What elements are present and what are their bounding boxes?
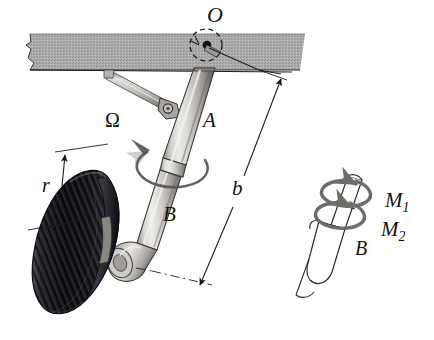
clevis-pin-joint [158, 98, 180, 119]
drag-brace-link [104, 70, 167, 109]
label-strut-B: B [163, 202, 176, 226]
inset-torque-diagram [296, 175, 371, 298]
label-length-b: b [232, 176, 243, 200]
label-radius-r: r [42, 174, 50, 196]
landing-gear-figure: O A B Ω r b B M1 M2 [0, 0, 434, 340]
label-moment-2: M2 [380, 217, 406, 244]
ceiling-mounting-plate [26, 34, 305, 76]
label-omega: Ω [105, 109, 120, 131]
label-inset-B: B [355, 237, 367, 259]
label-strut-A: A [201, 108, 216, 132]
label-moment-1: M1 [384, 188, 409, 215]
figure-canvas: O A B Ω r b B M1 M2 [0, 0, 434, 340]
label-pivot-O: O [207, 2, 223, 27]
